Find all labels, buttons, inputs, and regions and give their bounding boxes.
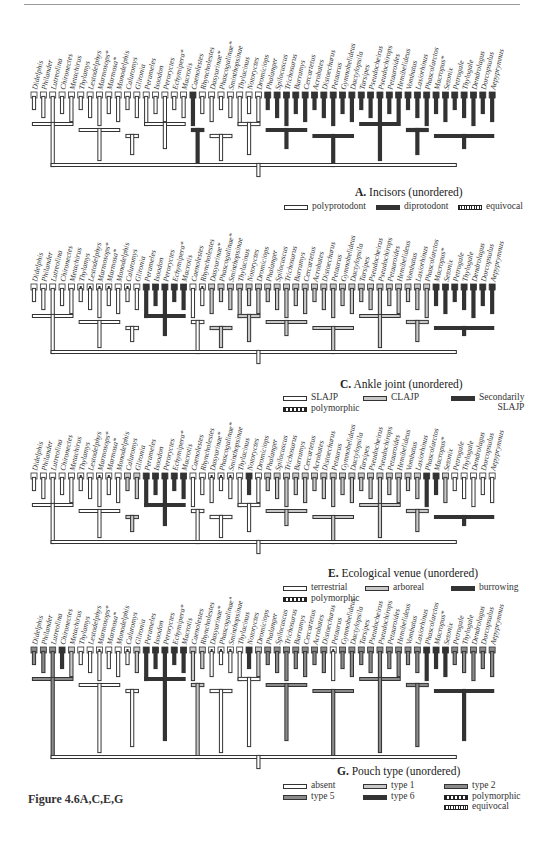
panel-a-incisors: DidelphisPhilanderLutreolinaChironectesM… xyxy=(0,0,539,212)
legend-item: polymorphic xyxy=(444,791,521,801)
swatch-type-1 xyxy=(363,784,387,789)
legend-item: type 1 xyxy=(363,780,414,790)
legend-item: absent xyxy=(283,780,335,790)
swatch-polyprotodont xyxy=(284,205,308,210)
panel-title: C. Ankle joint (unordered) xyxy=(340,378,463,390)
panel-c-ankle-joint: DidelphisPhilanderLutreolinaChironectesM… xyxy=(0,212,539,407)
cladogram-g: DidelphisPhilanderLutreolinaChironectesM… xyxy=(0,597,539,854)
swatch-diprotodont xyxy=(376,205,400,210)
figure-caption: Figure 4.6A,C,E,G xyxy=(28,792,123,807)
swatch-secondarily-slajp xyxy=(451,396,475,401)
cladogram-a: DidelphisPhilanderLutreolinaChironectesM… xyxy=(0,0,539,212)
swatch-terrestrial xyxy=(283,586,307,591)
panel-e-ecological-venue: DidelphisPhilanderLutreolinaChironectesM… xyxy=(0,407,539,597)
swatch-absent xyxy=(283,784,307,789)
swatch-type-5 xyxy=(283,795,307,800)
panel-title: G. Pouch type (unordered) xyxy=(337,765,460,777)
legend-item: equivocal xyxy=(458,201,523,211)
legend-item: diprotodont xyxy=(376,201,448,211)
swatch-arboreal xyxy=(365,586,389,591)
legend-item: burrowing xyxy=(451,582,519,592)
panel-title: E. Ecological venue (unordered) xyxy=(328,567,478,579)
legend-item: type 2 xyxy=(444,780,495,790)
legend-item: equivocal xyxy=(444,801,509,811)
legend-item: SLAJP xyxy=(283,392,338,402)
legend-item: type 6 xyxy=(363,791,414,801)
swatch-polymorphic xyxy=(444,795,468,800)
legend-item: polyprotodont xyxy=(284,201,366,211)
legend-item: arboreal xyxy=(365,582,424,592)
swatch-clajp xyxy=(363,396,387,401)
swatch-equivocal xyxy=(458,205,482,210)
swatch-type-6 xyxy=(363,795,387,800)
panel-title: A. Incisors (unordered) xyxy=(355,186,463,198)
swatch-equivocal xyxy=(444,805,468,810)
swatch-slajp xyxy=(283,396,307,401)
panel-g-pouch-type: DidelphisPhilanderLutreolinaChironectesM… xyxy=(0,597,539,854)
legend-item: terrestrial xyxy=(283,582,347,592)
swatch-type-2 xyxy=(444,784,468,789)
legend-item: type 5 xyxy=(283,791,334,801)
legend-item: CLAJP xyxy=(363,392,419,402)
swatch-burrowing xyxy=(451,586,475,591)
